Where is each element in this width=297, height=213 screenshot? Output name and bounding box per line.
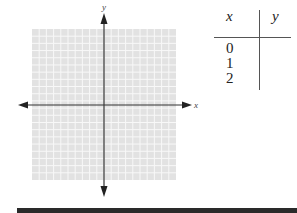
y-axis-up-arrow-icon [101,13,108,24]
table-divider-horizontal [214,37,291,38]
x-axis-label: x [193,100,198,110]
y-axis-label: y [101,2,106,12]
table-divider-vertical [259,10,260,90]
x-axis-right-arrow-icon [182,102,192,109]
y-axis-down-arrow-icon [101,186,108,197]
bottom-rule [17,208,297,213]
table-header-x: x [226,8,233,25]
table-cell-x: 2 [226,70,234,87]
x-axis-left-arrow-icon [18,102,28,109]
xy-table: x y 0 1 2 [214,8,278,88]
coordinate-plane: x y [0,0,200,213]
table-header-y: y [272,8,279,25]
